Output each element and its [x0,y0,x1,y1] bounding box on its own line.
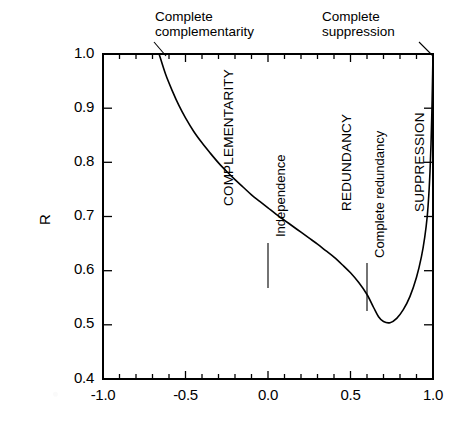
y-tick-label-4: 0.7 [48,207,94,224]
x-tick-label-1: -1.0 [78,387,128,404]
callout-complete-suppression: Complete suppression [322,9,395,39]
x-tick-label-2: -0.5 [161,387,211,404]
y-tick-label-1: 1.0 [48,45,94,62]
callout-suppression-line1: Complete [322,9,395,24]
chart-figure: 1.0 0.9 0.8 0.7 0.6 0.5 0.4 -1.0 -0.5 0.… [0,0,462,448]
region-label-redundancy: REDUNDANCY [339,114,354,211]
region-pointer-lines [268,243,367,311]
x-tick-label-4: 0.5 [326,387,376,404]
x-tick-label-3: 0.0 [243,387,293,404]
y-tick-label-2: 0.9 [48,99,94,116]
data-curve [159,54,433,323]
y-tick-label-7: 0.4 [48,370,94,387]
y-tick-label-5: 0.6 [48,261,94,278]
region-label-independence: Independence [273,155,288,237]
region-label-suppression: SUPPRESSION [412,112,427,212]
region-label-complete-redundancy: Complete redundancy [372,131,387,258]
x-tick-label-5: 1.0 [408,387,458,404]
y-tick-label-6: 0.5 [48,315,94,332]
region-label-complementarity: COMPLEMENTARITY [221,69,236,206]
callout-complete-complementarity: Complete complementarity [155,9,254,39]
y-axis-title: R [36,214,53,225]
callout-complementarity-line2: complementarity [155,24,254,39]
callout-complementarity-line1: Complete [155,9,254,24]
y-tick-label-3: 0.8 [48,153,94,170]
callout-suppression-line2: suppression [322,24,395,39]
